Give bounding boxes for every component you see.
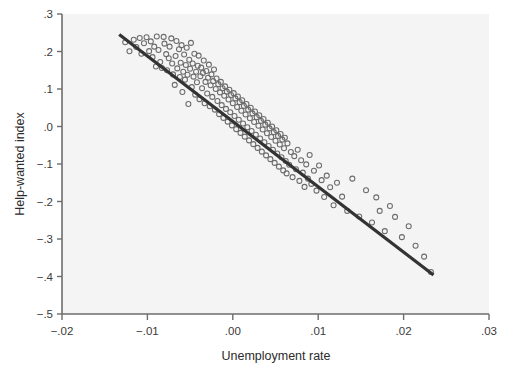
y-tick-label: −.3	[37, 233, 53, 245]
x-tick-label: −.02	[51, 325, 74, 337]
x-tick-label: −.01	[136, 325, 159, 337]
y-tick-label: −.1	[37, 158, 53, 170]
y-tick-label: −.5	[37, 308, 53, 320]
scatter-plot-figure: .3.2.1.0−.1−.2−.3−.4−.5 −.02−.01.00.01.0…	[0, 0, 505, 369]
y-axis-label: Help-wanted index	[13, 111, 27, 215]
y-tick-label: .0	[43, 121, 53, 133]
y-tick-label: .1	[43, 83, 53, 95]
x-tick-label: .01	[310, 325, 326, 337]
x-tick-label: .00	[225, 325, 241, 337]
y-tick-label: −.2	[37, 196, 53, 208]
x-axis-label: Unemployment rate	[221, 349, 330, 363]
x-tick-label: .02	[396, 325, 412, 337]
y-tick-label: .3	[43, 8, 53, 20]
y-tick-label: .2	[43, 46, 53, 58]
y-tick-label: −.4	[37, 271, 54, 283]
x-tick-label: .03	[481, 325, 497, 337]
